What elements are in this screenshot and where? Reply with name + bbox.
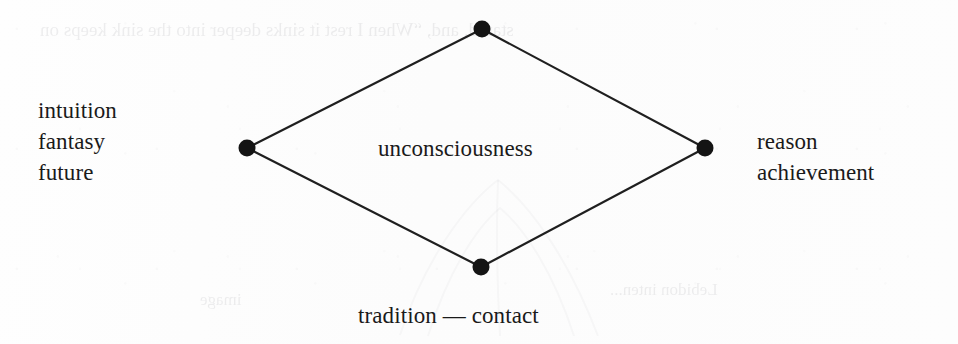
edge-bottom-left xyxy=(247,148,481,267)
vertex-dot-left xyxy=(239,140,256,157)
left-label-3: future xyxy=(38,157,117,188)
vertex-dot-bottom xyxy=(473,259,490,276)
center-label: unconsciousness xyxy=(378,133,533,164)
edge-top-right xyxy=(482,29,705,148)
left-pole-labels: intuition fantasy future xyxy=(38,95,117,188)
right-label-2: achievement xyxy=(757,157,874,188)
right-label-1: reason xyxy=(757,126,874,157)
left-label-2: fantasy xyxy=(38,126,117,157)
vertex-dot-top xyxy=(474,21,491,38)
left-label-1: intuition xyxy=(38,95,117,126)
scanned-page: stared, and, “When I rest it sinks deepe… xyxy=(0,0,958,344)
edge-top-left xyxy=(247,29,482,148)
vertex-dot-right xyxy=(697,140,714,157)
right-pole-labels: reason achievement xyxy=(757,126,874,188)
bottom-label: tradition — contact xyxy=(358,300,539,331)
edge-bottom-right xyxy=(481,148,705,267)
